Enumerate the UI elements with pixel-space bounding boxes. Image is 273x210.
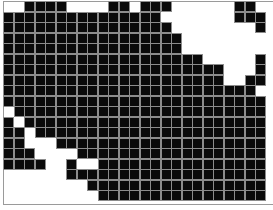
board-cell-filled[interactable] [4, 139, 13, 148]
board-cell-filled[interactable] [141, 149, 150, 158]
board-cell-empty[interactable] [214, 13, 223, 22]
board-cell-filled[interactable] [109, 128, 118, 137]
board-cell-filled[interactable] [183, 55, 192, 64]
board-cell-filled[interactable] [46, 34, 55, 43]
board-cell-filled[interactable] [25, 86, 34, 95]
board-cell-filled[interactable] [88, 139, 97, 148]
board-cell-filled[interactable] [88, 107, 97, 116]
board-cell-empty[interactable] [4, 107, 13, 116]
board-cell-filled[interactable] [193, 149, 202, 158]
board-cell-filled[interactable] [109, 181, 118, 190]
board-cell-filled[interactable] [15, 65, 24, 74]
board-cell-filled[interactable] [151, 97, 160, 106]
board-cell-filled[interactable] [46, 13, 55, 22]
board-cell-filled[interactable] [246, 118, 255, 127]
board-cell-empty[interactable] [67, 149, 76, 158]
board-cell-filled[interactable] [214, 160, 223, 169]
board-cell-filled[interactable] [88, 118, 97, 127]
board-cell-empty[interactable] [46, 160, 55, 169]
board-cell-empty[interactable] [204, 13, 213, 22]
board-cell-empty[interactable] [4, 2, 13, 11]
board-cell-filled[interactable] [214, 76, 223, 85]
board-cell-filled[interactable] [46, 118, 55, 127]
board-cell-filled[interactable] [256, 23, 262, 32]
board-cell-filled[interactable] [109, 86, 118, 95]
board-cell-filled[interactable] [15, 34, 24, 43]
board-cell-filled[interactable] [109, 13, 118, 22]
board-cell-filled[interactable] [225, 139, 234, 148]
board-cell-filled[interactable] [88, 170, 97, 179]
board-cell-filled[interactable] [172, 34, 181, 43]
board-cell-empty[interactable] [88, 2, 97, 11]
board-cell-filled[interactable] [151, 170, 160, 179]
board-cell-filled[interactable] [57, 86, 66, 95]
board-cell-filled[interactable] [130, 34, 139, 43]
board-cell-filled[interactable] [183, 65, 192, 74]
board-cell-filled[interactable] [172, 160, 181, 169]
board-cell-filled[interactable] [67, 118, 76, 127]
board-cell-filled[interactable] [130, 149, 139, 158]
board-cell-filled[interactable] [183, 76, 192, 85]
board-cell-empty[interactable] [15, 118, 24, 127]
board-cell-filled[interactable] [99, 139, 108, 148]
board-cell-filled[interactable] [225, 107, 234, 116]
board-cell-filled[interactable] [225, 149, 234, 158]
board-cell-filled[interactable] [162, 160, 171, 169]
board-cell-filled[interactable] [172, 191, 181, 200]
board-cell-filled[interactable] [162, 44, 171, 53]
board-cell-empty[interactable] [15, 191, 24, 200]
board-cell-filled[interactable] [151, 181, 160, 190]
board-cell-empty[interactable] [88, 160, 97, 169]
board-cell-filled[interactable] [256, 149, 262, 158]
board-cell-empty[interactable] [193, 44, 202, 53]
board-cell-filled[interactable] [130, 44, 139, 53]
board-cell-filled[interactable] [141, 44, 150, 53]
board-cell-empty[interactable] [246, 23, 255, 32]
board-cell-filled[interactable] [162, 170, 171, 179]
board-cell-filled[interactable] [193, 139, 202, 148]
board-cell-filled[interactable] [78, 76, 87, 85]
board-cell-filled[interactable] [151, 139, 160, 148]
board-cell-filled[interactable] [25, 13, 34, 22]
board-cell-filled[interactable] [256, 55, 262, 64]
board-cell-filled[interactable] [4, 44, 13, 53]
board-cell-filled[interactable] [99, 44, 108, 53]
board-cell-filled[interactable] [256, 13, 262, 22]
board-cell-filled[interactable] [204, 128, 213, 137]
board-cell-filled[interactable] [57, 23, 66, 32]
board-cell-filled[interactable] [193, 65, 202, 74]
board-cell-filled[interactable] [141, 107, 150, 116]
board-cell-filled[interactable] [120, 86, 129, 95]
board-cell-filled[interactable] [88, 86, 97, 95]
board-cell-filled[interactable] [235, 107, 244, 116]
board-cell-empty[interactable] [57, 149, 66, 158]
game-board[interactable] [4, 2, 262, 202]
board-cell-filled[interactable] [78, 128, 87, 137]
board-cell-filled[interactable] [67, 23, 76, 32]
board-cell-filled[interactable] [15, 44, 24, 53]
board-cell-empty[interactable] [235, 44, 244, 53]
board-cell-filled[interactable] [162, 107, 171, 116]
board-cell-filled[interactable] [99, 191, 108, 200]
board-cell-filled[interactable] [57, 76, 66, 85]
board-cell-filled[interactable] [225, 118, 234, 127]
board-cell-filled[interactable] [99, 55, 108, 64]
board-cell-filled[interactable] [256, 170, 262, 179]
board-cell-filled[interactable] [172, 170, 181, 179]
board-cell-filled[interactable] [151, 65, 160, 74]
board-cell-filled[interactable] [183, 139, 192, 148]
board-cell-filled[interactable] [15, 139, 24, 148]
board-cell-filled[interactable] [214, 86, 223, 95]
board-cell-filled[interactable] [141, 170, 150, 179]
board-cell-filled[interactable] [120, 65, 129, 74]
board-cell-filled[interactable] [141, 34, 150, 43]
board-cell-empty[interactable] [57, 160, 66, 169]
board-cell-filled[interactable] [172, 44, 181, 53]
board-cell-filled[interactable] [172, 118, 181, 127]
board-cell-filled[interactable] [67, 65, 76, 74]
board-cell-filled[interactable] [172, 76, 181, 85]
board-cell-filled[interactable] [246, 86, 255, 95]
board-cell-filled[interactable] [172, 97, 181, 106]
board-cell-filled[interactable] [235, 149, 244, 158]
board-cell-filled[interactable] [130, 139, 139, 148]
